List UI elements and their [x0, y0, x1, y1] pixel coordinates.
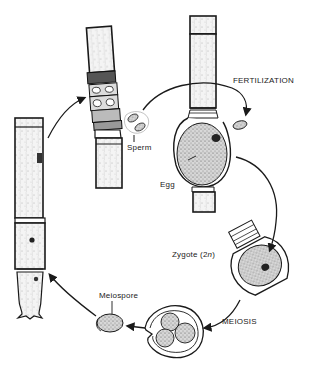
zygote-label: Zygote (2n)	[172, 250, 215, 259]
meiospore-label: Meiospore	[99, 291, 138, 300]
egg-label: Egg	[160, 180, 175, 189]
sperm-label: Sperm	[127, 143, 152, 152]
sperm-cluster	[124, 112, 148, 142]
antheridial-filament	[86, 26, 122, 188]
meiosis-tetrad	[145, 306, 203, 358]
meiosis-label: MEIOSIS	[222, 317, 257, 326]
arrow-to-antheridia	[48, 98, 84, 138]
zygote-label-close: )	[212, 250, 215, 259]
zygote-structure	[214, 213, 296, 300]
cycle-arrows	[48, 83, 277, 328]
oogonial-filament	[174, 16, 231, 212]
arrow-tetrad-to-meiospore	[128, 326, 145, 328]
life-cycle-diagram	[0, 0, 316, 373]
approaching-sperm	[232, 119, 248, 130]
zygote-label-text: Zygote (2	[172, 250, 208, 259]
young-filament	[15, 118, 45, 319]
arrow-meiospore-to-filament	[50, 275, 96, 316]
fertilization-label: FERTILIZATION	[233, 76, 294, 85]
meiospore-cell	[96, 301, 123, 332]
